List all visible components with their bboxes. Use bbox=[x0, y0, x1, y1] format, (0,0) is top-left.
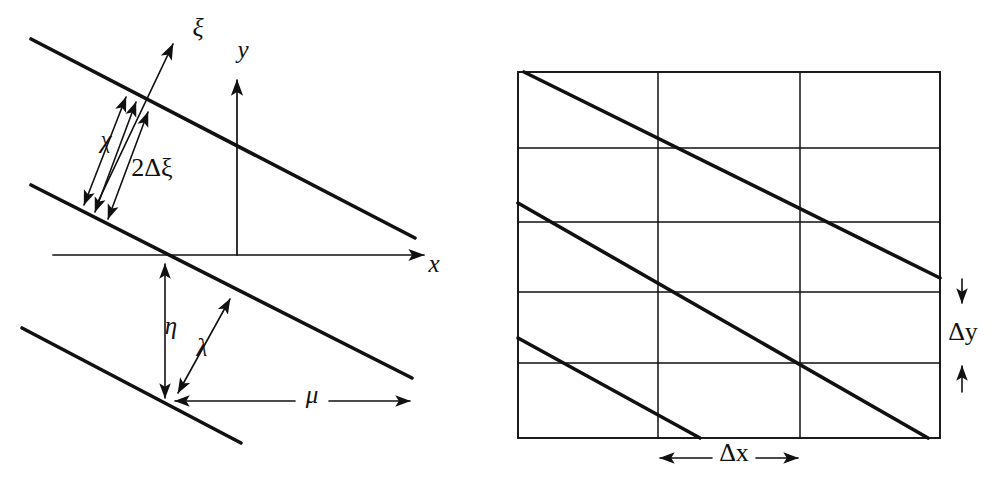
lambda-dimension-label: λ bbox=[196, 334, 208, 361]
wave-coordinate-figure: x y ξ χ 2Δξ η λ μ bbox=[0, 0, 1004, 481]
mu-dimension-label: μ bbox=[305, 381, 319, 408]
xi-axis-label: ξ bbox=[192, 13, 204, 42]
x-axis-label: x bbox=[427, 250, 439, 277]
two-delta-xi-dimension-label: 2Δξ bbox=[131, 153, 172, 182]
delta-y-label-text: Δy bbox=[948, 317, 978, 346]
delta-x-label-text: Δx bbox=[719, 438, 749, 467]
delta-y-dimension-label: Δy bbox=[948, 317, 978, 346]
chi-dimension-label: χ bbox=[99, 126, 113, 153]
y-axis-label: y bbox=[234, 36, 249, 63]
eta-dimension-label: η bbox=[165, 312, 177, 339]
delta-x-dimension-label: Δx bbox=[719, 438, 749, 467]
